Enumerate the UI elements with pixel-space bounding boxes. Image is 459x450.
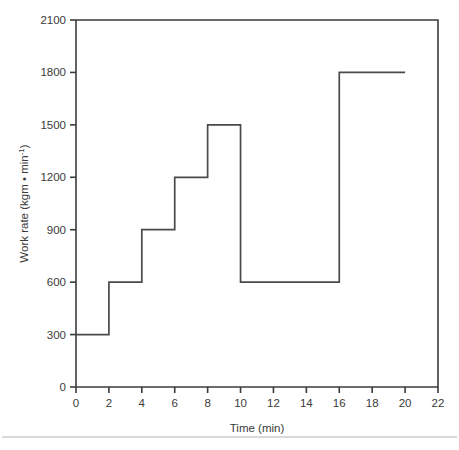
y-tick-label-300: 300 — [47, 329, 66, 341]
y-axis-title-base: Work rate (kgm • min — [18, 155, 30, 262]
x-tick-label-2: 2 — [106, 397, 112, 409]
x-tick-label-4: 4 — [139, 397, 146, 409]
y-tick-label-1200: 1200 — [40, 171, 66, 183]
x-tick-label-8: 8 — [204, 397, 210, 409]
x-tick-label-0: 0 — [73, 397, 79, 409]
x-tick-label-20: 20 — [399, 397, 412, 409]
y-tick-label-1500: 1500 — [40, 119, 66, 131]
x-axis-tick-labels: 0246810121416182022 — [73, 397, 445, 409]
x-tick-label-14: 14 — [300, 397, 313, 409]
y-tick-label-1800: 1800 — [40, 66, 66, 78]
x-axis-ticks — [76, 387, 438, 393]
y-axis-title-close: ) — [18, 144, 30, 148]
work-rate-step-line — [76, 72, 405, 334]
y-axis-title: Work rate (kgm • min-1) — [17, 144, 30, 262]
plot-frame — [76, 20, 438, 387]
x-tick-label-16: 16 — [333, 397, 346, 409]
x-axis-title: Time (min) — [230, 422, 285, 434]
x-tick-label-12: 12 — [267, 397, 280, 409]
y-axis-tick-labels: 03006009001200150018002100 — [40, 14, 66, 393]
x-tick-label-18: 18 — [366, 397, 379, 409]
x-tick-label-22: 22 — [432, 397, 445, 409]
y-axis-ticks — [70, 20, 76, 387]
chart-figure: 03006009001200150018002100 0246810121416… — [0, 0, 459, 450]
x-tick-label-10: 10 — [234, 397, 247, 409]
work-rate-step-chart: 03006009001200150018002100 0246810121416… — [0, 0, 459, 450]
x-tick-label-6: 6 — [172, 397, 178, 409]
y-tick-label-900: 900 — [47, 224, 66, 236]
y-tick-label-600: 600 — [47, 276, 66, 288]
y-tick-label-2100: 2100 — [40, 14, 66, 26]
y-tick-label-0: 0 — [60, 381, 66, 393]
